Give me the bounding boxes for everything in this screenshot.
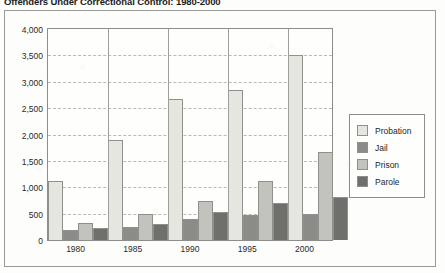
- bar-probation-1985: [108, 140, 123, 240]
- gridline: 0: [48, 240, 332, 241]
- y-axis-tick-label: 1,500: [22, 157, 43, 167]
- y-axis-tick-label: 2,000: [22, 131, 43, 141]
- bar-probation-1990: [168, 99, 183, 240]
- bar-group: [48, 29, 108, 240]
- legend-label: Jail: [375, 143, 388, 153]
- bar-parole-1985: [153, 224, 168, 240]
- bar-probation-2000: [288, 55, 303, 240]
- bar-jail-2000: [303, 214, 318, 240]
- bar-group: [228, 29, 288, 240]
- x-axis-tick-label: 1980: [47, 244, 104, 254]
- legend-swatch-prison: [357, 159, 368, 170]
- bar-group: [108, 29, 168, 240]
- x-axis-tick-label: 1990: [161, 244, 218, 254]
- plot-area: 4,0003,5003,0002,5002,0001,5001,0005000: [47, 28, 333, 241]
- bar-probation-1995: [228, 90, 243, 240]
- legend-item-prison[interactable]: Prison: [357, 156, 418, 173]
- legend-swatch-jail: [357, 142, 368, 153]
- bar-jail-1980: [63, 230, 78, 240]
- page-title: Offenders Under Correctional Control: 19…: [4, 0, 221, 7]
- legend-item-probation[interactable]: Probation: [357, 122, 418, 139]
- y-axis-tick-label: 500: [29, 210, 43, 220]
- bar-jail-1995: [243, 215, 258, 240]
- y-axis-tick-label: 1,000: [22, 183, 43, 193]
- x-axis-tick-label: 2000: [276, 244, 333, 254]
- bar-probation-1980: [48, 181, 63, 240]
- y-axis-tick-label: 0: [38, 236, 43, 246]
- x-axis-tick-label: 1995: [219, 244, 276, 254]
- bar-parole-1995: [273, 203, 288, 240]
- bar-parole-1990: [213, 212, 228, 240]
- bar-parole-2000: [333, 197, 348, 240]
- bar-group: [168, 29, 228, 240]
- figure-frame: 4,0003,5003,0002,5002,0001,5001,0005000 …: [4, 10, 436, 267]
- y-axis-tick-label: 4,000: [22, 25, 43, 35]
- legend-item-jail[interactable]: Jail: [357, 139, 418, 156]
- bar-prison-1990: [198, 201, 213, 240]
- legend-label: Parole: [375, 177, 400, 187]
- bar-group: [288, 29, 348, 240]
- x-axis-labels: 19801985199019952000: [47, 244, 333, 254]
- bar-prison-1980: [78, 223, 93, 240]
- x-axis-tick-label: 1985: [104, 244, 161, 254]
- chart-legend: ProbationJailPrisonParole: [349, 114, 425, 198]
- legend-swatch-probation: [357, 125, 368, 136]
- legend-swatch-parole: [357, 176, 368, 187]
- bar-prison-1995: [258, 181, 273, 240]
- y-axis-tick-label: 3,500: [22, 51, 43, 61]
- bar-prison-2000: [318, 152, 333, 240]
- bar-jail-1985: [123, 227, 138, 240]
- bar-parole-1980: [93, 228, 108, 240]
- legend-item-parole[interactable]: Parole: [357, 173, 418, 190]
- legend-label: Probation: [375, 126, 411, 136]
- bar-jail-1990: [183, 219, 198, 240]
- bar-prison-1985: [138, 214, 153, 240]
- legend-label: Prison: [375, 160, 399, 170]
- y-axis-tick-label: 2,500: [22, 104, 43, 114]
- y-axis-tick-label: 3,000: [22, 78, 43, 88]
- bars-layer: [48, 29, 332, 240]
